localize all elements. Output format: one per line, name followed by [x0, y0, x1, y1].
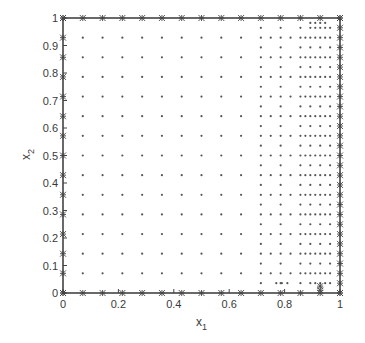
y-tick-label: 0.8	[43, 67, 58, 79]
y-tick-label: 1	[52, 12, 58, 24]
x-tick-label: 0.4	[166, 298, 181, 310]
y-tick-label: 0.2	[43, 232, 58, 244]
x-tick-label: 0.2	[111, 298, 126, 310]
x-tick-label: 1	[337, 298, 343, 310]
x-tick-label: 0.6	[222, 298, 237, 310]
y-tick-label: 0.4	[43, 177, 58, 189]
y-tick-label: 0.1	[43, 260, 58, 272]
x-axis-label: x1	[196, 315, 207, 332]
x-tick-label: 0.8	[277, 298, 292, 310]
data-points	[82, 22, 332, 284]
y-tick-label: 0.5	[43, 150, 58, 162]
x-tick-label: 0	[60, 298, 66, 310]
y-axis-label: x2	[19, 149, 36, 160]
y-tick-label: 0	[52, 287, 58, 299]
y-tick-label: 0.3	[43, 205, 58, 217]
scatter-chart: 00.20.40.60.81 00.10.20.30.40.50.60.70.8…	[0, 0, 365, 343]
y-tick-label: 0.9	[43, 40, 58, 52]
y-tick-label: 0.7	[43, 95, 58, 107]
y-tick-label: 0.6	[43, 122, 58, 134]
